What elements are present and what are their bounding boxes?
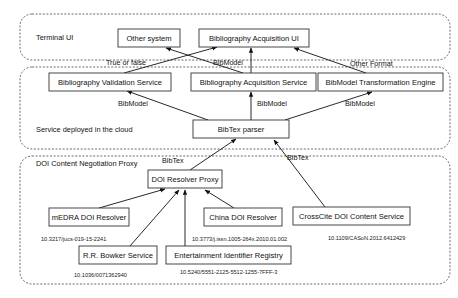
node-label: CrossCite DOI Content Service bbox=[299, 212, 404, 221]
node-bib-val: Bibliography Validation Service bbox=[49, 73, 171, 91]
arrow-doi-proxy bbox=[190, 139, 236, 170]
doi-example-label: 10.1036/0071362940 bbox=[74, 272, 127, 278]
region-label-doi: DOI Content Negotiation Proxy bbox=[36, 159, 138, 168]
node-label: BibModel Transformation Engine bbox=[325, 78, 435, 87]
node-bowker: R.R. Bowker Service bbox=[79, 246, 157, 264]
node-label: Bibliography Acquisition UI bbox=[209, 34, 299, 43]
arrow-crosscite bbox=[274, 140, 325, 207]
node-bib-acq-svc: Bibliography Acquisition Service bbox=[191, 73, 316, 91]
node-crosscite: CrossCite DOI Content Service bbox=[293, 207, 410, 225]
doi-example-label: 10.1109/CASoN.2012.6412429 bbox=[328, 235, 405, 241]
region-label-terminal: Terminal UI bbox=[36, 33, 73, 42]
region-label-cloud: Service deployed in the cloud bbox=[36, 125, 133, 134]
doi-example-label: 10.3773/j.issn.1005-264x.2010.01.002 bbox=[192, 236, 287, 242]
arrow-medra bbox=[99, 189, 165, 208]
node-label: Bibliography Acquisition Service bbox=[200, 78, 308, 87]
node-doi-proxy: DOI Resolver Proxy bbox=[148, 170, 222, 188]
node-bibtex-parser: BibTex parser bbox=[193, 120, 289, 138]
doi-example-label: 10.3217/jucs-019-15-2241 bbox=[41, 236, 106, 242]
node-label: R.R. Bowker Service bbox=[83, 251, 153, 260]
node-bibmodel-engine: BibModel Transformation Engine bbox=[318, 73, 443, 91]
node-medra: mEDRA DOI Resolver bbox=[49, 208, 129, 226]
node-label: Entertainment Identifier Registry bbox=[174, 251, 283, 260]
node-label: BibTex parser bbox=[218, 125, 265, 134]
edge-label: Other Format bbox=[350, 59, 393, 68]
node-other-system: Other system bbox=[118, 29, 180, 47]
node-label: China DOI Resolver bbox=[209, 213, 277, 222]
node-label: Bibliography Validation Service bbox=[58, 78, 162, 87]
edge-label: BibModel bbox=[345, 99, 375, 108]
architecture-diagram: Terminal UIService deployed in the cloud… bbox=[0, 0, 458, 298]
edge-label: BibTex bbox=[287, 153, 309, 162]
node-label: Other system bbox=[126, 34, 171, 43]
edge-label: BibTex bbox=[162, 156, 184, 165]
doi-example-label: 10.5240/5551-2125-5512-1255-7FFF-3 bbox=[180, 269, 277, 275]
node-eidr: Entertainment Identifier Registry bbox=[166, 246, 291, 264]
edge-label: True or false bbox=[106, 58, 146, 67]
node-bib-acq-ui: Bibliography Acquisition UI bbox=[199, 29, 309, 47]
regions: Terminal UIService deployed in the cloud… bbox=[20, 14, 450, 284]
edge-label: BibModel bbox=[118, 99, 148, 108]
node-china: China DOI Resolver bbox=[204, 208, 282, 226]
node-label: DOI Resolver Proxy bbox=[151, 175, 218, 184]
edge-label: BibModel bbox=[213, 58, 243, 67]
edge-label: BibModel bbox=[257, 99, 287, 108]
node-label: mEDRA DOI Resolver bbox=[52, 213, 127, 222]
arrow-china bbox=[205, 190, 234, 208]
arrow-bowker bbox=[130, 190, 179, 246]
